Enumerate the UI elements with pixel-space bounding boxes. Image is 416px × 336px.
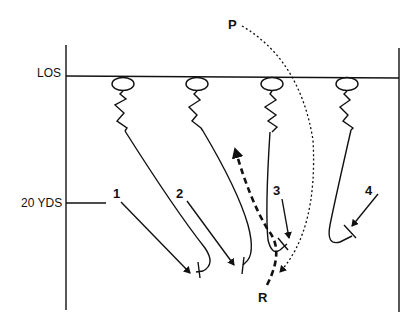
defender-2-zigzag	[189, 91, 203, 131]
defender-2-symbol	[186, 78, 208, 91]
defender-3-symbol	[261, 78, 283, 91]
receiver-route	[236, 152, 276, 285]
defender-2-drop	[203, 131, 251, 265]
defender-2-number: 2	[176, 186, 183, 201]
defender-4	[329, 78, 358, 243]
depth-label: 20 YDS	[21, 196, 62, 210]
defender-1-break-mark	[198, 262, 200, 278]
defender-4-drop	[329, 130, 352, 243]
defender-4-break-mark	[344, 225, 356, 238]
defender-3-zigzag	[265, 91, 277, 132]
arrow-4	[352, 194, 378, 226]
arrow-3	[282, 199, 289, 238]
pursuit-arrow-4: 4	[352, 183, 378, 226]
coverage-diagram: LOS 20 YDS 1 2 3	[0, 0, 416, 336]
defender-4-symbol	[336, 78, 358, 91]
pursuit-arrow-2: 2	[176, 186, 234, 265]
defender-1-symbol	[112, 78, 134, 91]
defender-4-zigzag	[340, 91, 353, 130]
receiver-route-group: R	[236, 152, 276, 305]
pass-path	[242, 26, 314, 272]
defender-1	[112, 78, 210, 279]
defender-4-number: 4	[365, 183, 373, 198]
defender-2-break-mark	[242, 257, 244, 274]
los-label: LOS	[37, 66, 61, 80]
pursuit-arrow-3: 3	[273, 183, 289, 238]
receiver-label: R	[258, 290, 268, 305]
defender-1-number: 1	[113, 186, 120, 201]
passer-label: P	[228, 17, 237, 32]
defender-3-number: 3	[273, 183, 280, 198]
defender-1-zigzag	[115, 91, 127, 131]
